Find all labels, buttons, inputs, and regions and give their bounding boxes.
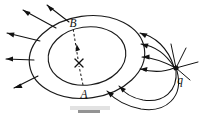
outward-field-lines-group xyxy=(6,5,69,88)
inward-field-line-4 xyxy=(140,67,174,72)
outward-arrow-2 xyxy=(23,10,56,28)
point-charge-group xyxy=(171,44,198,80)
label-point-b: B xyxy=(69,17,76,29)
dashed-axis-line-upper xyxy=(73,28,78,59)
charge-dot xyxy=(173,65,178,70)
figure-container: B A q xyxy=(0,0,199,119)
inner-ellipse xyxy=(44,22,129,90)
outward-arrow-1 xyxy=(47,5,69,22)
charge-ray-right xyxy=(176,62,198,68)
dashed-axis-group xyxy=(73,28,83,85)
caption-smudge xyxy=(78,110,100,113)
outward-arrow-3 xyxy=(7,33,40,42)
center-cross-mark xyxy=(75,59,83,67)
label-point-a: A xyxy=(79,88,88,100)
dashed-axis-line xyxy=(79,66,83,85)
charge-ray-up-right xyxy=(176,48,186,68)
inward-field-line-5 xyxy=(119,70,176,100)
field-line-diagram: B A q xyxy=(0,0,199,119)
